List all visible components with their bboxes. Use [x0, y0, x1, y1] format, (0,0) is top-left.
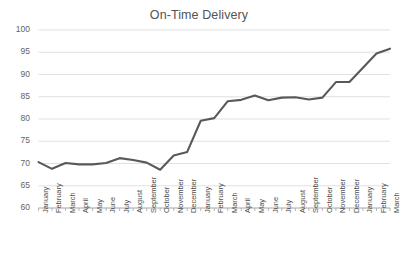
- data-series-line: [39, 49, 391, 170]
- y-axis-tick-label: 75: [8, 136, 30, 145]
- y-axis-tick-label: 70: [8, 159, 30, 168]
- y-axis-tick-label: 65: [8, 181, 30, 190]
- y-axis-tick-label: 100: [8, 25, 30, 34]
- y-axis-tick-label: 80: [8, 114, 30, 123]
- gridlines: [39, 30, 391, 186]
- y-axis-tick-label: 85: [8, 92, 30, 101]
- series-line-on-time-delivery: [39, 49, 391, 170]
- y-axis-tick-label: 95: [8, 47, 30, 56]
- y-axis-tick-label: 90: [8, 70, 30, 79]
- y-axis-tick-label: 60: [8, 203, 30, 212]
